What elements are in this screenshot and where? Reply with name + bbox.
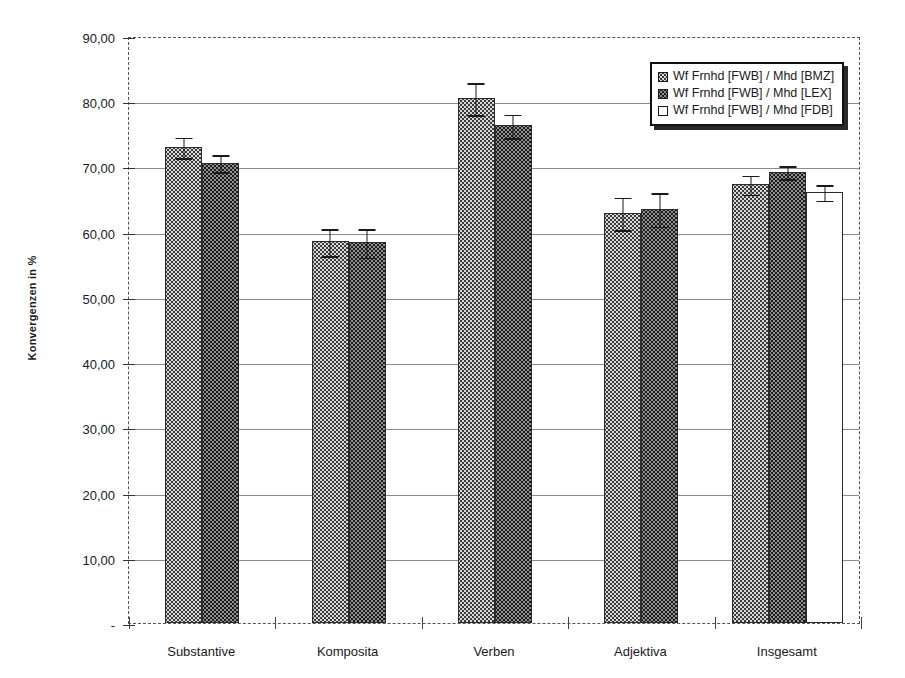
y-tick-label: 40,00: [82, 357, 115, 372]
bar-group: [275, 38, 421, 623]
error-bar-stem: [513, 115, 514, 140]
x-tick-mark: [422, 617, 423, 629]
error-bar-cap-bottom: [505, 138, 522, 140]
bar-bmz: [604, 213, 641, 623]
x-tick-label: Insgesamt: [757, 644, 817, 659]
x-tick-mark: [861, 617, 862, 629]
error-bar-cap-top: [779, 166, 796, 168]
error-bar-stem: [622, 198, 623, 232]
error-bar-cap-top: [175, 138, 192, 140]
error-bar: [604, 198, 641, 232]
bar-lex: [641, 209, 678, 623]
error-bar-cap-bottom: [651, 227, 668, 229]
legend-swatch-bmz: [658, 72, 668, 82]
bar-bmz: [732, 184, 769, 623]
error-bar-stem: [367, 229, 368, 259]
error-bar-stem: [476, 83, 477, 117]
error-bar-cap-bottom: [614, 230, 631, 232]
error-bar-cap-top: [742, 176, 759, 178]
error-bar: [495, 115, 532, 140]
x-tick-label: Adjektiva: [614, 644, 667, 659]
legend-swatch-fdb: [658, 106, 668, 116]
error-bar-cap-top: [505, 115, 522, 117]
bar-bmz: [312, 241, 349, 623]
error-bar-cap-bottom: [322, 256, 339, 258]
error-bar-cap-top: [468, 83, 485, 85]
error-bar-cap-top: [359, 229, 376, 231]
y-tick-label: 30,00: [82, 422, 115, 437]
error-bar-cap-top: [212, 155, 229, 157]
y-tick-label: 80,00: [82, 96, 115, 111]
error-bar-cap-bottom: [175, 158, 192, 160]
bar-lex: [495, 125, 532, 623]
chart-legend: Wf Frnhd [FWB] / Mhd [BMZ]Wf Frnhd [FWB]…: [650, 62, 844, 126]
error-bar: [165, 138, 202, 160]
error-bar-stem: [824, 185, 825, 202]
y-tick-label: 90,00: [82, 31, 115, 46]
error-bar: [732, 176, 769, 197]
x-tick-label: Komposita: [317, 644, 378, 659]
bar-lex: [202, 163, 239, 623]
y-tick-label: -: [111, 618, 115, 633]
y-tick-label: 70,00: [82, 161, 115, 176]
error-bar-cap-top: [322, 229, 339, 231]
error-bar: [312, 229, 349, 258]
bar-chart: Konvergenzen in % -10,0020,0030,0040,005…: [0, 0, 905, 678]
error-bar-cap-top: [816, 185, 833, 187]
legend-label: Wf Frnhd [FWB] / Mhd [FDB]: [673, 102, 833, 119]
bar-group: [422, 38, 568, 623]
error-bar-stem: [659, 193, 660, 228]
y-axis-title: Konvergenzen in %: [26, 198, 38, 418]
bar-bmz: [165, 147, 202, 623]
bar-lex: [769, 172, 806, 623]
error-bar-cap-bottom: [816, 201, 833, 203]
error-bar-stem: [220, 155, 221, 173]
bar-fdb: [806, 192, 843, 623]
y-tick-label: 60,00: [82, 226, 115, 241]
y-tick-label: 50,00: [82, 291, 115, 306]
y-tick-label: 20,00: [82, 487, 115, 502]
bar-bmz: [458, 98, 495, 623]
y-tick-label: 10,00: [82, 552, 115, 567]
error-bar: [769, 166, 806, 180]
error-bar-cap-bottom: [468, 115, 485, 117]
x-tick-label: Substantive: [167, 644, 235, 659]
error-bar: [202, 155, 239, 173]
error-bar-cap-bottom: [359, 258, 376, 260]
x-tick-mark: [129, 617, 130, 629]
bar-lex: [349, 242, 386, 623]
legend-item: Wf Frnhd [FWB] / Mhd [LEX]: [658, 85, 834, 102]
x-tick-mark: [568, 617, 569, 629]
x-tick-label: Verben: [473, 644, 514, 659]
error-bar-cap-bottom: [779, 179, 796, 181]
error-bar: [349, 229, 386, 259]
x-tick-mark: [275, 617, 276, 629]
error-bar-cap-bottom: [212, 172, 229, 174]
error-bar: [458, 83, 495, 117]
error-bar: [806, 185, 843, 202]
legend-label: Wf Frnhd [FWB] / Mhd [BMZ]: [673, 68, 834, 85]
legend-swatch-lex: [658, 89, 668, 99]
legend-item: Wf Frnhd [FWB] / Mhd [BMZ]: [658, 68, 834, 85]
error-bar: [641, 193, 678, 228]
legend-label: Wf Frnhd [FWB] / Mhd [LEX]: [673, 85, 831, 102]
bar-group: [129, 38, 275, 623]
error-bar-cap-top: [614, 198, 631, 200]
error-bar-stem: [750, 176, 751, 197]
x-tick-mark: [715, 617, 716, 629]
error-bar-stem: [330, 229, 331, 258]
error-bar-cap-bottom: [742, 195, 759, 197]
error-bar-cap-top: [651, 193, 668, 195]
error-bar-stem: [183, 138, 184, 160]
legend-item: Wf Frnhd [FWB] / Mhd [FDB]: [658, 102, 834, 119]
